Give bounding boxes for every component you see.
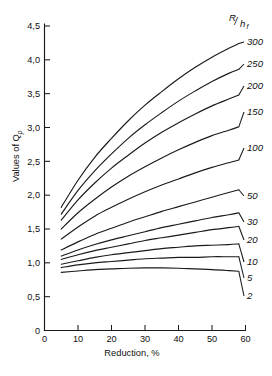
y-tick-label: 3,5 [27, 89, 40, 99]
leader-line-200 [239, 86, 244, 95]
curve-labels-group: 3002502001501005030201052 [246, 36, 264, 301]
leader-line-20 [239, 226, 244, 240]
leader-line-250 [239, 64, 244, 69]
y-tick-label: 4,5 [27, 21, 40, 31]
data-curve-200 [61, 95, 239, 220]
curve-label-300: 300 [247, 36, 264, 47]
data-curves-group [61, 44, 239, 273]
curve-label-30: 30 [247, 216, 258, 227]
curve-label-10: 10 [247, 256, 258, 267]
curve-leader-lines [239, 42, 244, 296]
y-axis-tick-labels: 00,51,01,52,02,53,03,54,04,5 [27, 21, 40, 336]
leader-line-50 [239, 190, 244, 196]
curve-label-50: 50 [247, 190, 258, 201]
y-tick-label: 1,0 [27, 258, 40, 268]
data-curve-2 [61, 268, 239, 272]
leader-line-150 [239, 112, 244, 127]
curve-label-20: 20 [246, 234, 258, 245]
curve-label-150: 150 [247, 106, 264, 117]
y-tick-label: 3,0 [27, 123, 40, 133]
curve-label-5: 5 [247, 272, 253, 283]
data-curve-250 [61, 69, 239, 214]
y-tick-label: 4,0 [27, 55, 40, 65]
legend-title: R/hf [229, 12, 250, 30]
x-tick-label: 20 [106, 334, 116, 344]
legend-title-slash: / [234, 16, 239, 27]
x-tick-label: 50 [207, 334, 217, 344]
data-curve-100 [61, 160, 239, 239]
x-tick-label: 30 [140, 334, 150, 344]
y-tick-label: 1,5 [27, 224, 40, 234]
chart-svg: 00,51,01,52,02,53,03,54,04,5 01020304050… [0, 0, 272, 376]
data-curve-300 [61, 44, 239, 208]
legend-title-subscript: f [247, 23, 250, 30]
x-tick-label: 60 [240, 334, 250, 344]
leader-line-300 [239, 42, 244, 44]
curve-label-200: 200 [246, 80, 264, 91]
leader-line-30 [239, 213, 244, 222]
y-tick-label: 0 [35, 326, 40, 336]
y-tick-label: 0,5 [27, 292, 40, 302]
y-axis-title-main: Values of Q [11, 134, 21, 182]
x-tick-label: 10 [73, 334, 83, 344]
y-tick-label: 2,0 [27, 190, 40, 200]
axes-group [45, 24, 246, 331]
x-axis-tick-labels: 0102030405060 [42, 334, 251, 344]
ticks-group [45, 26, 246, 331]
curve-label-100: 100 [247, 142, 264, 153]
y-tick-label: 2,5 [27, 157, 40, 167]
x-tick-label: 40 [173, 334, 183, 344]
legend-title-denominator: h [240, 18, 245, 29]
x-tick-label: 0 [42, 334, 47, 344]
data-curve-20 [61, 226, 239, 259]
y-axis-title: Values of Qp [11, 130, 23, 182]
curve-label-2: 2 [246, 290, 253, 301]
curve-label-250: 250 [246, 58, 264, 69]
y-axis-title-text: Values of Qp [11, 130, 23, 182]
chart-container: 00,51,01,52,02,53,03,54,04,5 01020304050… [0, 0, 272, 376]
leader-line-100 [239, 148, 244, 160]
x-axis-title: Reduction, % [104, 348, 159, 358]
y-axis-title-subscript: p [16, 130, 24, 135]
